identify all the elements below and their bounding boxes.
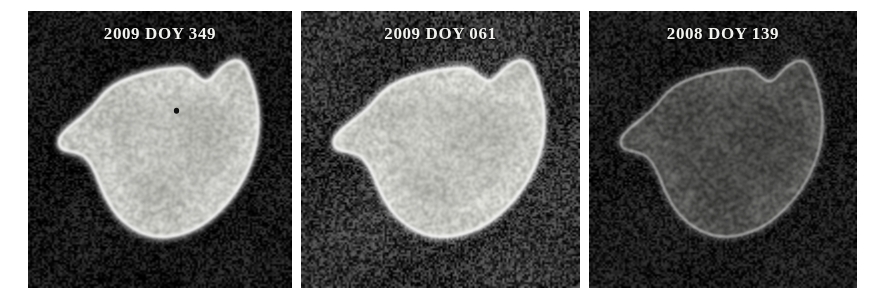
island-landmass — [589, 11, 857, 288]
image-panel-3: 2008 DOY 139 — [589, 11, 857, 288]
figure-root: 2009 DOY 3492009 DOY 0612008 DOY 139 — [0, 0, 884, 305]
dark-lake-spot — [174, 108, 179, 114]
island-landmass — [28, 11, 292, 288]
image-panel-2: 2009 DOY 061 — [301, 11, 580, 288]
island-landmass — [301, 11, 580, 288]
image-panel-1: 2009 DOY 349 — [28, 11, 292, 288]
